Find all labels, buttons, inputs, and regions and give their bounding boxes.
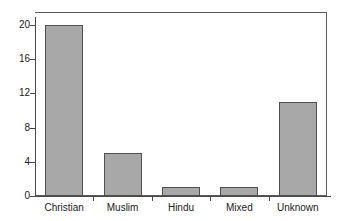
y-axis-tick-mark [30,25,36,26]
x-axis-line [30,196,331,197]
y-axis-line [35,17,36,197]
bar [220,187,258,196]
y-axis-tick-label: 12 [4,88,30,98]
bar-chart: 048121620 ChristianMuslimHinduMixedUnkno… [0,0,343,221]
y-axis-tick-label: 0 [4,191,30,201]
bar [104,153,142,196]
y-axis-tick-mark [30,128,36,129]
y-axis-tick-label: 4 [4,157,30,167]
bar [162,187,200,196]
y-axis-tick-label: 8 [4,123,30,133]
bar [279,102,317,196]
x-axis-tick-mark [269,197,270,201]
x-axis-tick-mark [152,197,153,201]
x-axis-category-labels: ChristianMuslimHinduMixedUnknown [35,202,327,218]
x-axis-category-label: Mixed [210,202,268,214]
bar [45,25,83,196]
x-axis-tick-mark [93,197,94,201]
x-axis-tick-mark [210,197,211,201]
y-axis-tick-labels: 048121620 [0,0,30,221]
bars-group [35,12,327,196]
y-axis-tick-label: 16 [4,54,30,64]
y-axis-tick-mark [30,59,36,60]
x-axis-category-label: Muslim [93,202,151,214]
x-axis-category-label: Unknown [269,202,327,214]
x-axis-category-label: Hindu [152,202,210,214]
y-axis-tick-mark [30,162,36,163]
y-axis-tick-label: 20 [4,20,30,30]
x-axis-category-label: Christian [35,202,93,214]
y-axis-tick-mark [30,93,36,94]
